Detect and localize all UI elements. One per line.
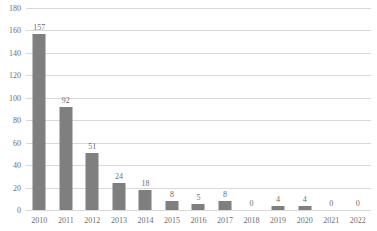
x-tick-label: 2017 bbox=[217, 216, 233, 225]
y-tick-label: 40 bbox=[13, 161, 21, 170]
x-axis: 2010201120122013201420152016201720182019… bbox=[26, 213, 371, 231]
y-tick-label: 60 bbox=[13, 138, 21, 147]
bar-group: 4 bbox=[265, 8, 292, 210]
bar[interactable] bbox=[298, 206, 311, 210]
y-tick-label: 0 bbox=[17, 206, 21, 215]
bar-group: 92 bbox=[53, 8, 80, 210]
x-tick-label: 2013 bbox=[111, 216, 127, 225]
bar-group: 4 bbox=[291, 8, 318, 210]
x-tick-label: 2014 bbox=[137, 216, 153, 225]
x-tick-label: 2016 bbox=[191, 216, 207, 225]
bar-value-label: 157 bbox=[33, 23, 45, 32]
bar-group: 18 bbox=[132, 8, 159, 210]
y-tick-label: 20 bbox=[13, 183, 21, 192]
bar[interactable] bbox=[86, 153, 99, 210]
bar-value-label: 8 bbox=[170, 190, 174, 199]
bar-value-label: 0 bbox=[329, 199, 333, 208]
bar[interactable] bbox=[219, 201, 232, 210]
y-tick-label: 180 bbox=[9, 4, 21, 13]
y-tick-label: 120 bbox=[9, 71, 21, 80]
y-tick-label: 100 bbox=[9, 93, 21, 102]
bar-value-label: 4 bbox=[303, 195, 307, 204]
bar-group: 8 bbox=[212, 8, 239, 210]
bar[interactable] bbox=[59, 107, 72, 210]
bars-layer: 1579251241885804400 bbox=[26, 8, 371, 210]
bar-group: 8 bbox=[159, 8, 186, 210]
bar-group: 24 bbox=[106, 8, 133, 210]
bar[interactable] bbox=[33, 34, 46, 210]
bar-value-label: 24 bbox=[115, 172, 123, 181]
bar-group: 51 bbox=[79, 8, 106, 210]
x-tick-label: 2021 bbox=[323, 216, 339, 225]
x-tick-label: 2010 bbox=[31, 216, 47, 225]
bar-value-label: 51 bbox=[88, 142, 96, 151]
bar-value-label: 5 bbox=[196, 193, 200, 202]
bar[interactable] bbox=[192, 204, 205, 210]
x-tick-label: 2012 bbox=[84, 216, 100, 225]
y-tick-label: 80 bbox=[13, 116, 21, 125]
x-tick-label: 2019 bbox=[270, 216, 286, 225]
bar-group: 5 bbox=[185, 8, 212, 210]
y-axis: 180160140120100806040200 bbox=[0, 0, 24, 231]
bar[interactable] bbox=[112, 183, 125, 210]
x-tick-label: 2011 bbox=[58, 216, 74, 225]
bar-value-label: 0 bbox=[356, 199, 360, 208]
bar-value-label: 8 bbox=[223, 190, 227, 199]
bar-group: 0 bbox=[344, 8, 371, 210]
x-tick-label: 2018 bbox=[244, 216, 260, 225]
bar-group: 0 bbox=[318, 8, 345, 210]
bar-value-label: 18 bbox=[141, 179, 149, 188]
bar-group: 0 bbox=[238, 8, 265, 210]
gridline bbox=[26, 210, 371, 211]
bar-value-label: 4 bbox=[276, 195, 280, 204]
bar[interactable] bbox=[165, 201, 178, 210]
y-tick-label: 160 bbox=[9, 26, 21, 35]
bar-chart: 180160140120100806040200 157925124188580… bbox=[0, 0, 377, 231]
bar-value-label: 92 bbox=[62, 96, 70, 105]
bar[interactable] bbox=[272, 206, 285, 210]
x-tick-label: 2022 bbox=[350, 216, 366, 225]
bar[interactable] bbox=[139, 190, 152, 210]
x-tick-label: 2015 bbox=[164, 216, 180, 225]
x-tick-label: 2020 bbox=[297, 216, 313, 225]
bar-group: 157 bbox=[26, 8, 53, 210]
bar-value-label: 0 bbox=[250, 199, 254, 208]
y-tick-label: 140 bbox=[9, 48, 21, 57]
